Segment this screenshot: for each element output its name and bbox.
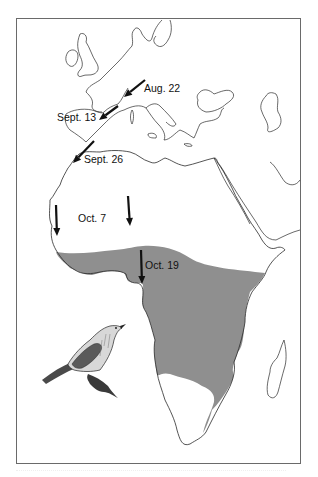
britain-coastline [78,33,98,76]
waypoint-label-sept26: Sept. 26 [84,153,123,165]
continental-europe-coastline [100,20,162,80]
bird-beak [120,324,126,329]
branch [87,374,118,398]
caspian-sea-coastline [261,93,281,132]
arrow-head-oct7a [53,228,60,236]
caption-remnant [16,470,286,474]
waypoint-label-oct19: Oct. 19 [145,259,179,271]
migration-arrow-oct19 [141,250,142,276]
scandinavia-coastline [154,20,171,47]
waypoint-label-sept13: Sept. 13 [57,111,96,123]
black-sea-coastline [197,90,233,112]
france-coastline [86,80,102,112]
migration-arrow-aug22 [130,80,145,92]
migration-arrow-oct7a [56,205,57,228]
red-sea-coastline [214,158,250,224]
ireland-coastline [66,50,78,66]
arrow-head-oct7b [126,218,133,226]
crete-coastline [184,144,192,147]
persian-gulf-coastline [270,162,300,185]
waypoint-label-aug22: Aug. 22 [144,82,180,94]
sicily-coastline [148,133,156,138]
madagascar-coastline [267,340,286,398]
arabia-coastline [214,158,300,240]
warbler-illustration [42,324,126,398]
migration-map: Aug. 22 Sept. 13 Sept. 26 Oct. 7 Oct. 19 [0,0,318,477]
migration-arrow-oct7b [128,196,129,218]
sardinia-coastline [131,110,134,124]
bird-eye [115,327,117,329]
waypoint-label-oct7: Oct. 7 [78,212,106,224]
